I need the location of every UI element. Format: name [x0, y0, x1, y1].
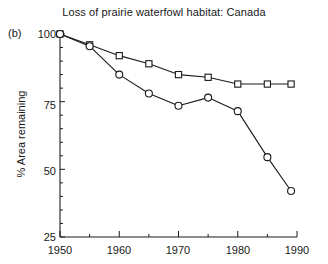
- data-point-marker: [175, 102, 182, 109]
- data-point-marker: [175, 72, 181, 78]
- series-1: [57, 31, 294, 87]
- data-point-marker: [146, 61, 152, 67]
- axis-lines: [60, 34, 297, 237]
- data-point-marker: [205, 74, 211, 80]
- y-axis-ticks: [60, 34, 65, 237]
- series-line: [60, 34, 291, 191]
- data-point-marker: [264, 81, 270, 87]
- data-point-marker: [205, 94, 212, 101]
- data-point-marker: [234, 108, 241, 115]
- series-2: [57, 31, 295, 195]
- data-point-marker: [288, 187, 295, 194]
- data-point-marker: [116, 71, 123, 78]
- data-point-marker: [235, 81, 241, 87]
- data-point-marker: [116, 53, 122, 59]
- data-point-marker: [57, 31, 64, 38]
- data-point-marker: [288, 81, 294, 87]
- data-point-marker: [145, 90, 152, 97]
- data-series-layer: [57, 31, 295, 195]
- x-axis-ticks: [60, 231, 297, 237]
- data-point-marker: [264, 154, 271, 161]
- chart-figure: Loss of prairie waterfowl habitat: Canad…: [0, 0, 328, 264]
- plot-area: [0, 0, 328, 264]
- data-point-marker: [86, 43, 93, 50]
